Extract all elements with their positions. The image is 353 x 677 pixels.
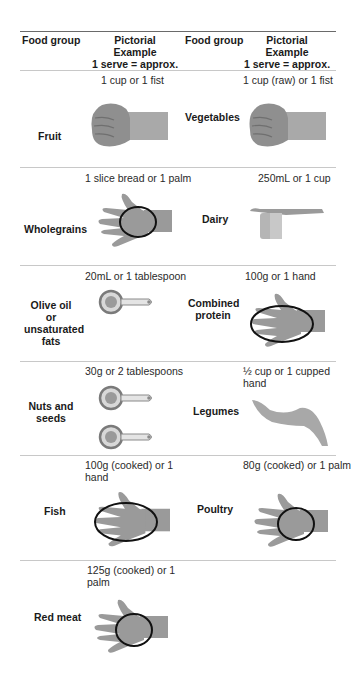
- serve-line: palm: [87, 576, 175, 588]
- food-group-legumes: Legumes: [193, 405, 239, 417]
- serve-text-fruit: 1 cup or 1 fist: [101, 74, 164, 86]
- serve-line: ½ cup or 1 cupped: [243, 365, 330, 377]
- fist-icon: [246, 100, 326, 150]
- header-pictorial-line2: Example: [237, 46, 337, 58]
- food-group-wholegrains: Wholegrains: [24, 223, 87, 235]
- serve-line: 100g (cooked) or 1: [85, 459, 173, 471]
- food-group-combined-protein: Combined protein: [188, 297, 238, 321]
- palm-icon: [92, 190, 172, 250]
- serve-text-red-meat: 125g (cooked) or 1 palm: [87, 564, 175, 588]
- food-group-line: Olive oil or: [24, 299, 78, 323]
- food-group-vegetables: Vegetables: [185, 111, 240, 123]
- food-group-line: seeds: [28, 412, 74, 424]
- food-group-red-meat: Red meat: [34, 611, 81, 623]
- header-pictorial-left: Pictorial Example 1 serve = approx.: [85, 34, 185, 70]
- food-group-line: unsaturated: [24, 323, 78, 335]
- measuring-cup-icon: [246, 203, 326, 243]
- row-separator: [20, 361, 336, 362]
- header-pictorial-line1: Pictorial: [85, 34, 185, 46]
- header-food-group-left: Food group: [22, 34, 80, 46]
- header-pictorial-line2: Example: [85, 46, 185, 58]
- palm-icon: [248, 490, 328, 550]
- table-top-rule: [20, 31, 336, 32]
- serve-text-fish: 100g (cooked) or 1 hand: [85, 459, 173, 483]
- row-separator: [20, 265, 336, 266]
- serve-text-olive-oil: 20mL or 1 tablespoon: [85, 270, 186, 282]
- header-pictorial-line3: 1 serve = approx.: [237, 58, 337, 70]
- food-group-line: Combined: [188, 297, 238, 309]
- serve-line: hand: [243, 377, 330, 389]
- food-group-fruit: Fruit: [38, 130, 61, 142]
- serve-text-poultry: 80g (cooked) or 1 palm: [243, 459, 351, 471]
- hand-icon: [88, 488, 170, 550]
- food-group-line: Nuts and: [28, 400, 74, 412]
- header-pictorial-line1: Pictorial: [237, 34, 337, 46]
- header-divider: [20, 70, 336, 71]
- row-separator: [20, 560, 336, 561]
- food-group-fish: Fish: [44, 505, 66, 517]
- serve-line: hand: [85, 471, 173, 483]
- tablespoon-icon: [97, 422, 157, 452]
- header-pictorial-right: Pictorial Example 1 serve = approx.: [237, 34, 337, 70]
- food-group-line: protein: [188, 309, 238, 321]
- header-pictorial-line3: 1 serve = approx.: [85, 58, 185, 70]
- serve-text-vegetables: 1 cup (raw) or 1 fist: [243, 74, 333, 86]
- food-group-poultry: Poultry: [197, 503, 233, 515]
- food-group-nuts-and-seeds: Nuts and seeds: [28, 400, 74, 424]
- serve-text-wholegrains: 1 slice bread or 1 palm: [85, 172, 191, 184]
- food-group-dairy: Dairy: [202, 213, 228, 225]
- hand-icon: [244, 290, 326, 350]
- tablespoon-icon: [97, 287, 157, 317]
- cupped-hand-icon: [250, 398, 330, 448]
- food-group-olive-oil: Olive oil or unsaturated fats: [24, 299, 78, 347]
- row-separator: [20, 455, 336, 456]
- serve-line: 125g (cooked) or 1: [87, 564, 175, 576]
- tablespoon-icon: [97, 383, 157, 413]
- palm-icon: [88, 596, 168, 656]
- serve-text-nuts: 30g or 2 tablespoons: [85, 365, 183, 377]
- food-group-line: fats: [24, 335, 78, 347]
- header-food-group-right: Food group: [185, 34, 243, 46]
- fist-icon: [88, 100, 168, 150]
- serve-text-combined-protein: 100g or 1 hand: [245, 270, 316, 282]
- serve-text-dairy: 250mL or 1 cup: [258, 172, 331, 184]
- serve-text-legumes: ½ cup or 1 cupped hand: [243, 365, 330, 389]
- row-separator: [20, 167, 336, 168]
